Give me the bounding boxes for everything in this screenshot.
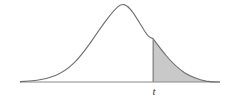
- t-critical-label: t: [152, 85, 156, 97]
- density-curve: [21, 4, 220, 82]
- t-distribution-figure: t: [0, 0, 230, 102]
- distribution-chart-svg: t: [0, 0, 230, 102]
- right-tail-shaded-area: [153, 39, 220, 82]
